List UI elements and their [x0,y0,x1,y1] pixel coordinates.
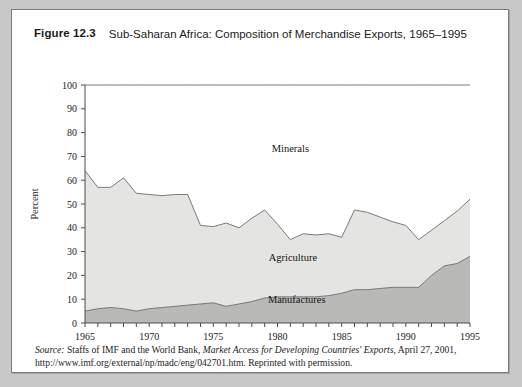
source-note: Source: Staffs of IMF and the World Bank… [35,343,487,369]
y-axis-title: Percent [29,188,40,220]
source-text-before: Staffs of IMF and the World Bank, [64,344,202,355]
y-tick-label: 20 [67,270,77,281]
stacked-area-chart: 0102030405060708090100 19651970197519801… [12,68,510,340]
x-tick-label: 1975 [203,331,223,340]
x-tick-label: 1990 [396,331,416,340]
y-tick-label: 10 [67,294,77,305]
series-label-agriculture: Agriculture [269,252,318,263]
series-label-manufactures: Manufactures [268,294,326,305]
x-tick-label: 1965 [75,331,95,340]
y-axis-tick-labels: 0102030405060708090100 [62,80,77,329]
y-tick-label: 0 [72,318,77,329]
x-tick-label: 1980 [268,331,288,340]
y-tick-label: 50 [67,199,77,210]
y-tick-label: 60 [67,175,77,186]
series-label-minerals: Minerals [272,143,309,154]
figure-caption: Figure 12.3 Sub-Saharan Africa: Composit… [34,27,484,43]
y-axis-title-text: Percent [29,188,40,220]
y-tick-label: 70 [67,151,77,162]
y-tick-label: 30 [67,246,77,257]
source-work-title: Market Access for Developing Countries' … [203,344,394,355]
y-tick-label: 90 [67,103,77,114]
figure-number: Figure 12.3 [34,27,96,39]
x-tick-label: 1970 [139,331,159,340]
y-tick-label: 40 [67,222,77,233]
x-tick-label: 1985 [332,331,352,340]
x-axis-tick-labels: 1965197019751980198519901995 [75,331,480,340]
figure-card: Figure 12.3 Sub-Saharan Africa: Composit… [11,9,509,373]
y-tick-label: 100 [62,80,77,91]
figure-title: Sub-Saharan Africa: Composition of Merch… [109,27,484,43]
chart-plot-area: 0102030405060708090100 19651970197519801… [12,68,510,340]
x-tick-label: 1995 [460,331,480,340]
y-tick-label: 80 [67,127,77,138]
source-label: Source: [35,344,64,355]
